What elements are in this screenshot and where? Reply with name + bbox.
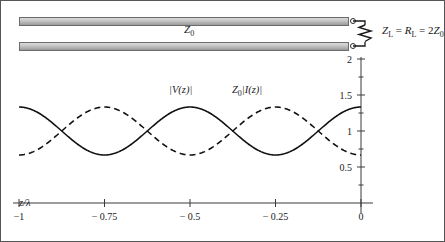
y-tick-label: 0.5 xyxy=(340,162,353,173)
current-curve-label: Z0|I(z)| xyxy=(232,84,262,98)
current-curve-label-text: |I(z)| xyxy=(242,84,262,95)
y-tick-label: 1 xyxy=(347,126,352,137)
transmission-line-bottom-conductor xyxy=(19,42,349,51)
plot-curves xyxy=(19,107,361,155)
load-equals-1: = xyxy=(393,24,405,36)
x-tick-label: − 0.75 xyxy=(92,211,118,222)
load-impedance-label: ZL = RL = 2Z0 xyxy=(382,24,444,39)
x-tick-label: − 0.25 xyxy=(263,211,289,222)
current-magnitude-curve xyxy=(19,107,361,155)
voltage-curve-label-text: |V(z)| xyxy=(169,84,192,95)
voltage-magnitude-curve xyxy=(19,107,361,155)
x-axis-label: z/λ xyxy=(19,197,31,208)
x-tick-label: 0 xyxy=(359,211,364,222)
figure-container: Z0 ZL = RL = 2Z0 −1− 0.75− 0.5− 0.2500.5… xyxy=(0,0,445,242)
plot-tick-labels: −1− 0.75− 0.5− 0.2500.511.52 xyxy=(14,56,364,222)
load-z0-subscript: 0 xyxy=(440,30,444,39)
y-tick-label: 2 xyxy=(347,56,352,65)
line-impedance-label: Z0 xyxy=(184,23,194,38)
x-tick-label: − 0.5 xyxy=(180,211,201,222)
voltage-curve-label: |V(z)| xyxy=(169,84,192,95)
line-impedance-subscript: 0 xyxy=(190,29,194,38)
x-tick-label: −1 xyxy=(14,211,25,222)
load-equals-2: = 2 xyxy=(416,24,433,36)
load-resistor-icon xyxy=(349,11,383,57)
standing-wave-plot: −1− 0.75− 0.5− 0.2500.511.52 xyxy=(1,56,445,242)
y-tick-label: 1.5 xyxy=(340,90,353,101)
